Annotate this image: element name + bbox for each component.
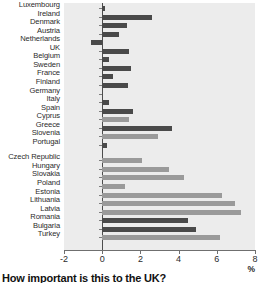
- bar: [102, 83, 128, 88]
- axis-tick-label: 8: [252, 254, 257, 264]
- category-label: Romania: [0, 213, 60, 221]
- bar: [91, 40, 102, 45]
- bar: [102, 57, 109, 62]
- axis-tick-label: 6: [214, 254, 219, 264]
- bar: [102, 109, 133, 114]
- bar: [102, 201, 235, 206]
- category-label: Denmark: [0, 18, 60, 26]
- bar: [102, 100, 109, 105]
- category-label: Netherlands: [0, 35, 60, 43]
- bar: [102, 235, 219, 240]
- axis-tick-label: -2: [60, 254, 68, 264]
- category-label: Poland: [0, 179, 60, 187]
- category-label: Portugal: [0, 138, 60, 146]
- category-label: Lithuania: [0, 196, 60, 204]
- category-label: Italy: [0, 95, 60, 103]
- bar: [102, 32, 119, 37]
- bar: [102, 49, 129, 54]
- bar: [102, 193, 221, 198]
- category-label: Turkey: [0, 230, 60, 238]
- plot-area: [64, 3, 255, 250]
- bar: [102, 15, 152, 20]
- bar: [102, 184, 125, 189]
- axis-tick-label: 4: [176, 254, 181, 264]
- bar: [102, 167, 169, 172]
- bar: [102, 175, 184, 180]
- x-axis-line: [64, 250, 255, 251]
- category-label-column: LuxembourgIrelandDenmarkAustriaNetherlan…: [0, 0, 62, 250]
- bar: [102, 227, 196, 232]
- bar: [102, 117, 129, 122]
- bar: [102, 218, 188, 223]
- bar: [102, 134, 157, 139]
- bar: [102, 210, 240, 215]
- row-tick: [99, 94, 102, 95]
- axis-unit-label: %: [247, 264, 255, 274]
- bar: [102, 158, 142, 163]
- bar: [102, 143, 107, 148]
- category-label: Cyprus: [0, 112, 60, 120]
- bar: [102, 74, 113, 79]
- chart-caption: How important is this to the UK?: [2, 272, 166, 283]
- axis-tick-label: 2: [138, 254, 143, 264]
- chart-page: LuxembourgIrelandDenmarkAustriaNetherlan…: [0, 0, 259, 283]
- axis-tick-label: 0: [100, 254, 105, 264]
- bar: [102, 23, 127, 28]
- bar: [102, 126, 172, 131]
- category-label: Luxembourg: [0, 1, 60, 9]
- bar: [102, 6, 105, 11]
- bar: [102, 66, 131, 71]
- category-label: Finland: [0, 78, 60, 86]
